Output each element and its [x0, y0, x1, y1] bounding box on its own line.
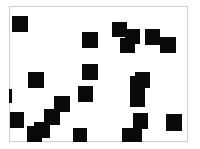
black-square	[82, 32, 98, 48]
black-square	[122, 128, 142, 142]
black-square	[82, 64, 98, 80]
black-square	[145, 29, 160, 45]
black-square	[160, 37, 176, 53]
black-square	[12, 16, 28, 32]
black-square	[130, 76, 145, 107]
black-square	[10, 112, 24, 128]
black-square	[120, 38, 135, 53]
black-square	[28, 72, 44, 88]
black-square	[73, 128, 87, 142]
black-square	[27, 126, 42, 142]
black-square	[9, 89, 12, 103]
black-square	[166, 114, 182, 131]
black-square	[133, 113, 148, 129]
black-square	[78, 86, 93, 102]
